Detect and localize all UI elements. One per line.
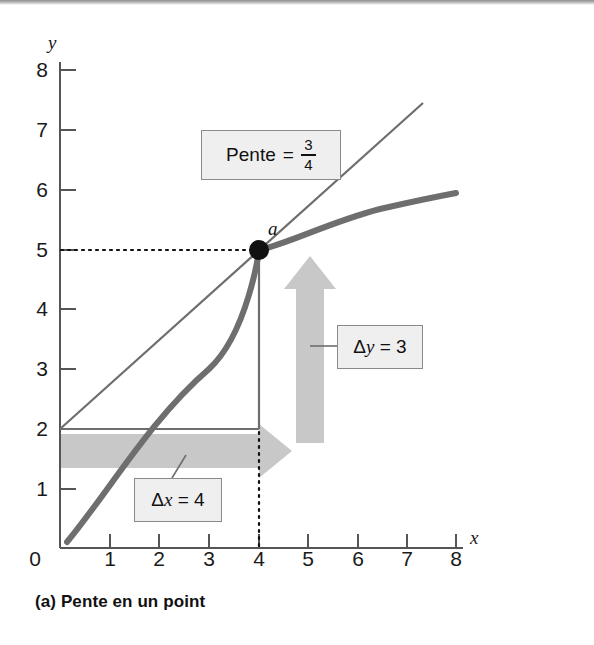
run-delta-symbol: Δ <box>151 489 164 511</box>
slope-numerator: 3 <box>301 137 315 153</box>
point-a-marker <box>249 240 269 260</box>
rise-arrow <box>284 256 336 443</box>
slope-callout-label: Pente <box>226 144 276 166</box>
point-a-label: a <box>268 218 278 240</box>
slope-fraction: 3 4 <box>301 137 316 172</box>
slope-denominator: 4 <box>301 157 315 173</box>
y-tick-label-8: 8 <box>22 58 48 82</box>
y-tick-label-5: 5 <box>22 238 48 262</box>
y-tick-label-2: 2 <box>22 417 48 441</box>
x-tick-label-6: 6 <box>345 547 371 571</box>
plot-canvas <box>0 0 594 600</box>
x-tick-label-7: 7 <box>394 547 420 571</box>
x-tick-label-5: 5 <box>295 547 321 571</box>
y-tick-label-3: 3 <box>22 357 48 381</box>
x-tick-label-1: 1 <box>97 547 123 571</box>
x-tick-label-2: 2 <box>146 547 172 571</box>
x-tick-label-4: 4 <box>246 547 272 571</box>
x-tick-label-0: 0 <box>22 547 48 571</box>
run-value: = 4 <box>178 489 205 511</box>
rise-callout: Δy = 3 <box>337 325 423 369</box>
slope-at-a-point-figure: y x 8 7 6 5 4 3 2 1 0 1 2 3 4 5 6 7 8 a … <box>0 0 594 600</box>
x-axis-title: x <box>470 527 478 549</box>
rise-delta-symbol: Δ <box>353 336 366 358</box>
x-tick-label-3: 3 <box>196 547 222 571</box>
y-axis-title: y <box>48 32 56 54</box>
run-variable: x <box>164 489 172 511</box>
y-tick-label-6: 6 <box>22 178 48 202</box>
x-axis-ticks <box>110 534 456 548</box>
rise-variable: y <box>366 336 374 358</box>
run-callout: Δx = 4 <box>134 478 222 522</box>
slope-callout: Pente = 3 4 <box>201 130 341 180</box>
slope-callout-equals: = <box>283 144 294 166</box>
y-tick-label-7: 7 <box>22 118 48 142</box>
figure-caption: (a) Pente en un point <box>35 592 205 612</box>
y-tick-label-1: 1 <box>22 477 48 501</box>
rise-value: = 3 <box>380 336 407 358</box>
y-tick-label-4: 4 <box>22 297 48 321</box>
x-tick-label-8: 8 <box>443 547 469 571</box>
